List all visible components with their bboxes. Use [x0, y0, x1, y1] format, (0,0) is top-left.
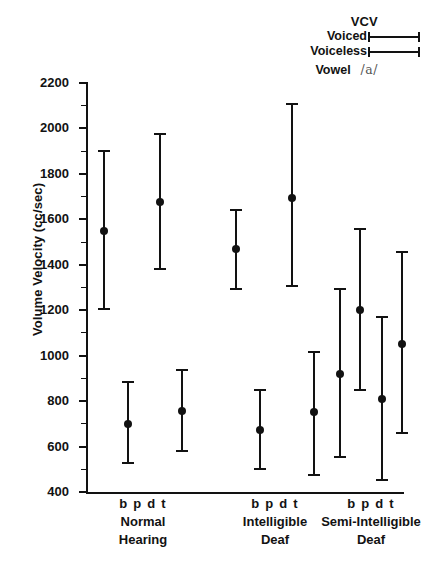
y-tick-label: 1200 — [40, 302, 69, 317]
error-bar-cap-bottom — [308, 474, 320, 476]
x-axis-group-1: b p d tNormalHearing — [73, 496, 213, 548]
error-bar-cap-top — [308, 351, 320, 353]
error-bar-cap-top — [396, 251, 408, 253]
error-bar-cap-top — [376, 316, 388, 318]
error-bar — [127, 381, 129, 464]
error-bar — [259, 389, 261, 471]
y-tick-label: 800 — [47, 393, 69, 408]
error-bar — [339, 288, 341, 458]
y-tick: 600 — [79, 446, 86, 448]
y-tick-minor — [81, 332, 86, 333]
y-tick-label: 1000 — [40, 347, 69, 362]
data-point-marker — [398, 340, 406, 348]
y-tick-minor — [81, 378, 86, 379]
x-axis-line — [86, 492, 404, 494]
y-tick: 2200 — [79, 82, 86, 84]
error-bar — [103, 150, 105, 310]
error-bar — [313, 351, 315, 476]
error-bar-cap-bottom — [334, 456, 346, 458]
y-axis-line — [86, 82, 88, 493]
error-bar — [159, 133, 161, 270]
data-point-marker — [232, 245, 240, 253]
error-bar — [235, 209, 237, 290]
y-tick-minor — [81, 105, 86, 106]
x-axis-group-3: b p d tSemi-IntelligibleDeaf — [301, 496, 424, 548]
x-axis-group-name: Hearing — [73, 532, 213, 548]
error-bar-line-icon — [368, 31, 420, 42]
legend-label-voiced: Voiced — [327, 29, 367, 44]
data-point-marker — [156, 198, 164, 206]
y-tick-minor — [81, 151, 86, 152]
error-bar-cap-top — [230, 209, 242, 211]
y-tick-label: 400 — [47, 484, 69, 499]
error-bar-cap-bottom — [254, 468, 266, 470]
error-bar-cap-top — [154, 133, 166, 135]
error-bar-cap-bottom — [286, 285, 298, 287]
y-tick-label: 2000 — [40, 120, 69, 135]
x-axis-pair-labels: b p d t — [73, 496, 213, 512]
legend-item-voiced: Voiced — [260, 29, 420, 44]
data-point-marker — [100, 227, 108, 235]
data-point-marker — [256, 426, 264, 434]
data-point-marker — [310, 408, 318, 416]
error-bar-cap-top — [98, 150, 110, 152]
error-bar — [359, 228, 361, 390]
y-tick-label: 1800 — [40, 165, 69, 180]
y-tick-minor — [81, 423, 86, 424]
y-tick-label: 1400 — [40, 256, 69, 271]
error-bar — [381, 316, 383, 481]
legend-vowel-label: Vowel — [315, 63, 350, 77]
error-bar-cap-top — [334, 288, 346, 290]
x-axis-group-name: Normal — [73, 514, 213, 530]
error-bar-cap-bottom — [396, 432, 408, 434]
legend-label-voiceless: Voiceless — [310, 44, 367, 59]
y-tick-minor — [81, 196, 86, 197]
data-point-marker — [378, 395, 386, 403]
x-axis-pair-labels: b p d t — [301, 496, 424, 512]
y-tick-label: 1600 — [40, 211, 69, 226]
error-bar-cap-top — [354, 228, 366, 230]
y-tick: 1200 — [79, 309, 86, 311]
data-point-marker — [356, 306, 364, 314]
y-tick-label: 600 — [47, 438, 69, 453]
y-tick: 400 — [79, 491, 86, 493]
error-bar-cap-bottom — [176, 450, 188, 452]
error-bar — [401, 251, 403, 434]
figure-volume-velocity: VCV Voiced Voiceless Vowel /a/ Volume Ve… — [0, 0, 424, 586]
data-point-marker — [124, 420, 132, 428]
error-bar-cap-bottom — [230, 288, 242, 290]
y-tick: 1800 — [79, 173, 86, 175]
x-axis-group-name: Deaf — [301, 532, 424, 548]
y-tick: 1400 — [79, 264, 86, 266]
y-tick-label: 2200 — [40, 75, 69, 90]
data-point-marker — [288, 194, 296, 202]
y-tick: 2000 — [79, 127, 86, 129]
x-axis-labels: b p d tNormalHearingb p d tIntelligibleD… — [86, 496, 404, 582]
error-bar-cap-bottom — [376, 479, 388, 481]
error-bar-cap-bottom — [122, 462, 134, 464]
error-bar-cap-top — [176, 369, 188, 371]
error-bar-cap-top — [286, 103, 298, 105]
y-tick: 1600 — [79, 218, 86, 220]
legend: VCV Voiced Voiceless Vowel /a/ — [260, 14, 420, 77]
error-bar — [291, 103, 293, 287]
error-bar-cap-top — [122, 381, 134, 383]
legend-title: VCV — [260, 14, 378, 29]
y-tick-minor — [81, 469, 86, 470]
x-axis-group-name: Semi-Intelligible — [301, 514, 424, 530]
error-bar-cap-bottom — [354, 389, 366, 391]
legend-vowel: Vowel /a/ — [260, 62, 378, 77]
error-bar-cap-bottom — [154, 268, 166, 270]
y-tick: 800 — [79, 400, 86, 402]
data-point-marker — [336, 370, 344, 378]
y-tick-minor — [81, 242, 86, 243]
data-point-marker — [178, 407, 186, 415]
y-tick: 1000 — [79, 355, 86, 357]
error-bar-line-icon — [368, 46, 420, 57]
legend-item-voiceless: Voiceless — [260, 44, 420, 59]
error-bar-cap-bottom — [98, 308, 110, 310]
legend-vowel-value: /a/ — [361, 62, 378, 77]
plot-area: 4006008001000120014001600180020002200 — [86, 83, 404, 492]
y-tick-minor — [81, 287, 86, 288]
error-bar — [181, 369, 183, 452]
